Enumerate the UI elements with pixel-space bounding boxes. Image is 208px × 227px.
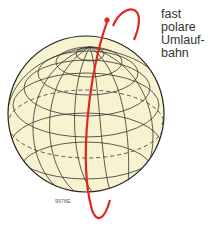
diagram: fast polare Umlauf- bahn 9978E [0, 0, 208, 227]
satellite-icon [104, 17, 109, 22]
label-line: bahn [161, 47, 205, 60]
orbit-back [113, 9, 139, 40]
orbit-label: fast polare Umlauf- bahn [161, 8, 205, 60]
figure-code: 9978E [55, 198, 70, 204]
